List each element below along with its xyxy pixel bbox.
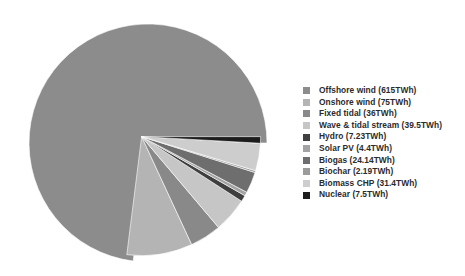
legend-item-label: Wave & tidal stream (39.5TWh): [319, 120, 442, 132]
legend-item[interactable]: Onshore wind (75TWh): [303, 97, 463, 109]
legend-item-label: Fixed tidal (36TWh): [319, 108, 397, 120]
legend-color-swatch: [303, 145, 310, 152]
legend-color-swatch: [303, 134, 310, 141]
legend-color-swatch: [303, 122, 310, 129]
legend-color-swatch: [303, 99, 310, 106]
legend-item[interactable]: Wave & tidal stream (39.5TWh): [303, 120, 463, 132]
legend-item-label: Biomass CHP (31.4TWh): [319, 178, 417, 190]
legend-color-swatch: [303, 87, 310, 94]
legend-item-label: Solar PV (4.4TWh): [319, 143, 392, 155]
legend-item-label: Offshore wind (615TWh): [319, 85, 416, 97]
legend-item[interactable]: Biomass CHP (31.4TWh): [303, 178, 463, 190]
chart-legend: Offshore wind (615TWh)Onshore wind (75TW…: [303, 85, 463, 201]
legend-color-swatch: [303, 192, 310, 199]
legend-item-label: Hydro (7.23TWh): [319, 131, 386, 143]
legend-item[interactable]: Biochar (2.19TWh): [303, 166, 463, 178]
legend-color-swatch: [303, 168, 310, 175]
legend-item-label: Nuclear (7.5TWh): [319, 189, 388, 201]
pie-slices-group: [29, 24, 267, 261]
legend-item[interactable]: Offshore wind (615TWh): [303, 85, 463, 97]
legend-item[interactable]: Biogas (24.14TWh): [303, 155, 463, 167]
pie-chart: Offshore wind (615TWh)Onshore wind (75TW…: [0, 0, 465, 276]
legend-item-label: Onshore wind (75TWh): [319, 97, 411, 109]
legend-color-swatch: [303, 110, 310, 117]
legend-item[interactable]: Nuclear (7.5TWh): [303, 189, 463, 201]
legend-item[interactable]: Fixed tidal (36TWh): [303, 108, 463, 120]
legend-item[interactable]: Hydro (7.23TWh): [303, 131, 463, 143]
legend-item-label: Biogas (24.14TWh): [319, 155, 395, 167]
legend-item[interactable]: Solar PV (4.4TWh): [303, 143, 463, 155]
legend-item-label: Biochar (2.19TWh): [319, 166, 393, 178]
legend-color-swatch: [303, 157, 310, 164]
legend-color-swatch: [303, 180, 310, 187]
